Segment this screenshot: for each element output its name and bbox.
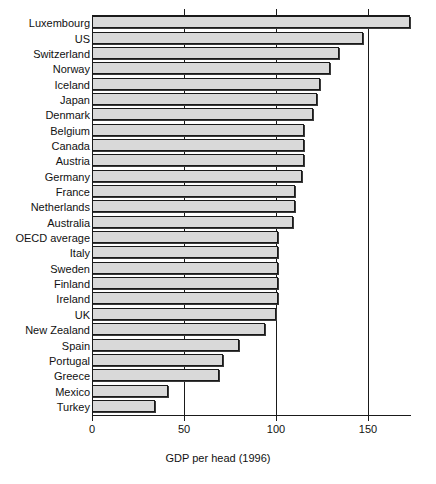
bar-luxembourg	[92, 16, 410, 28]
bar-switzerland	[92, 47, 339, 59]
category-label-spain: Spain	[62, 340, 90, 352]
x-axis-line	[92, 415, 411, 416]
x-tick-top-100	[276, 9, 277, 16]
bar-row	[92, 339, 239, 351]
category-label-us: US	[75, 33, 90, 45]
x-tick-label: 0	[89, 423, 95, 436]
bar-oecd-average	[92, 231, 278, 243]
bar-row	[92, 400, 155, 412]
bar-us	[92, 32, 363, 44]
bar-row	[92, 108, 313, 120]
x-tick-label: 150	[359, 423, 377, 436]
category-label-finland: Finland	[54, 278, 90, 290]
bar-denmark	[92, 108, 313, 120]
category-label-new-zealand: New Zealand	[25, 324, 90, 336]
category-label-norway: Norway	[53, 63, 90, 75]
bar-portugal	[92, 354, 223, 366]
category-label-switzerland: Switzerland	[33, 48, 90, 60]
x-tick-top-50	[184, 9, 185, 16]
bar-row	[92, 385, 168, 397]
x-tick-top-150	[368, 9, 369, 16]
category-label-japan: Japan	[60, 94, 90, 106]
bar-row	[92, 216, 293, 228]
bar-sweden	[92, 262, 278, 274]
category-label-oecd-average: OECD average	[15, 232, 90, 244]
cropped-top-text	[0, 0, 436, 7]
bar-row	[92, 124, 304, 136]
bar-row	[92, 308, 276, 320]
bar-row	[92, 262, 278, 274]
x-tick-150	[368, 416, 369, 421]
x-axis-title: GDP per head (1996)	[0, 452, 436, 464]
bar-row	[92, 78, 320, 90]
bar-germany	[92, 170, 302, 182]
bar-spain	[92, 339, 239, 351]
x-tick-0	[92, 416, 93, 421]
bar-row	[92, 369, 219, 381]
category-label-uk: UK	[75, 309, 90, 321]
bar-row	[92, 170, 302, 182]
category-label-greece: Greece	[54, 370, 90, 382]
bar-row	[92, 277, 278, 289]
category-label-portugal: Portugal	[49, 355, 90, 367]
bar-row	[92, 62, 330, 74]
category-label-france: France	[56, 186, 90, 198]
category-label-mexico: Mexico	[55, 386, 90, 398]
bar-france	[92, 185, 295, 197]
bar-finland	[92, 277, 278, 289]
x-tick-50	[184, 416, 185, 421]
bar-row	[92, 292, 278, 304]
category-label-canada: Canada	[51, 140, 90, 152]
bar-new-zealand	[92, 323, 265, 335]
bar-ireland	[92, 292, 278, 304]
bar-row	[92, 246, 278, 258]
category-label-turkey: Turkey	[57, 401, 90, 413]
bar-row	[92, 323, 265, 335]
bar-row	[92, 47, 339, 59]
bar-japan	[92, 93, 317, 105]
bar-row	[92, 32, 363, 44]
category-label-denmark: Denmark	[45, 109, 90, 121]
category-label-germany: Germany	[45, 171, 90, 183]
bar-canada	[92, 139, 304, 151]
bar-greece	[92, 369, 219, 381]
category-label-iceland: Iceland	[55, 79, 90, 91]
category-label-belgium: Belgium	[50, 125, 90, 137]
bar-row	[92, 185, 295, 197]
bar-row	[92, 200, 295, 212]
bar-row	[92, 16, 410, 28]
category-label-italy: Italy	[70, 247, 90, 259]
category-label-luxembourg: Luxembourg	[29, 17, 90, 29]
gridline-150	[368, 15, 369, 416]
bar-norway	[92, 62, 330, 74]
bar-row	[92, 139, 304, 151]
bar-austria	[92, 154, 304, 166]
bar-turkey	[92, 400, 155, 412]
category-label-ireland: Ireland	[56, 293, 90, 305]
category-label-sweden: Sweden	[50, 263, 90, 275]
bar-mexico	[92, 385, 168, 397]
category-label-netherlands: Netherlands	[31, 201, 90, 213]
bar-italy	[92, 246, 278, 258]
x-tick-label: 100	[267, 423, 285, 436]
bar-row	[92, 93, 317, 105]
bar-uk	[92, 308, 276, 320]
x-tick-100	[276, 416, 277, 421]
bar-chart: 050100150LuxembourgUSSwitzerlandNorwayIc…	[0, 0, 436, 484]
x-tick-label: 50	[178, 423, 190, 436]
bar-iceland	[92, 78, 320, 90]
bar-belgium	[92, 124, 304, 136]
bar-netherlands	[92, 200, 295, 212]
category-label-austria: Austria	[56, 155, 90, 167]
bar-australia	[92, 216, 293, 228]
bar-row	[92, 231, 278, 243]
bar-row	[92, 154, 304, 166]
category-label-australia: Australia	[47, 217, 90, 229]
bar-row	[92, 354, 223, 366]
